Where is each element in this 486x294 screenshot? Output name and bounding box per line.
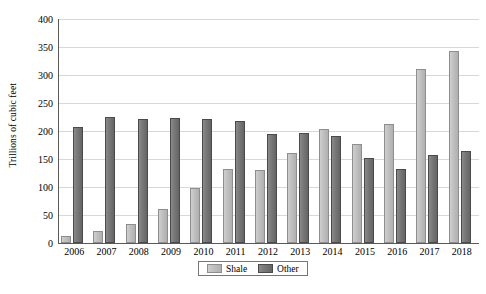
y-tick-label: 350 bbox=[10, 42, 58, 53]
x-tick-label: 2017 bbox=[414, 246, 446, 257]
x-tick-label: 2010 bbox=[187, 246, 219, 257]
legend-item-shale[interactable]: Shale bbox=[207, 264, 247, 274]
y-tick-label: 250 bbox=[10, 98, 58, 109]
bar-other-2006[interactable] bbox=[73, 127, 83, 243]
x-tick-label: 2011 bbox=[220, 246, 252, 257]
bar-shale-2011[interactable] bbox=[223, 169, 233, 243]
x-tick-label: 2012 bbox=[252, 246, 284, 257]
bar-group bbox=[187, 19, 219, 243]
bar-shale-2012[interactable] bbox=[255, 170, 265, 243]
bar-shale-2010[interactable] bbox=[190, 188, 200, 243]
bar-shale-2016[interactable] bbox=[384, 124, 394, 243]
bar-chart: Trillions of cubic feet 0501001502002503… bbox=[0, 0, 486, 294]
bar-shale-2013[interactable] bbox=[287, 153, 297, 243]
bar-group bbox=[381, 19, 413, 243]
y-tick-label: 300 bbox=[10, 70, 58, 81]
legend-swatch-shale bbox=[207, 264, 222, 273]
bar-shale-2015[interactable] bbox=[352, 144, 362, 243]
bar-shale-2014[interactable] bbox=[319, 129, 329, 243]
x-tick-label: 2014 bbox=[317, 246, 349, 257]
bar-other-2017[interactable] bbox=[428, 155, 438, 243]
bar-other-2011[interactable] bbox=[235, 121, 245, 243]
x-tick-label: 2015 bbox=[349, 246, 381, 257]
x-tick-label: 2006 bbox=[58, 246, 90, 257]
y-tick-label: 50 bbox=[10, 210, 58, 221]
x-tick-label: 2009 bbox=[155, 246, 187, 257]
chart-legend: ShaleOther bbox=[198, 261, 308, 276]
x-tick-label: 2018 bbox=[446, 246, 478, 257]
y-tick-label: 100 bbox=[10, 182, 58, 193]
x-tick-label: 2007 bbox=[90, 246, 122, 257]
bar-group bbox=[123, 19, 155, 243]
bar-other-2016[interactable] bbox=[396, 169, 406, 243]
bars-layer bbox=[58, 19, 478, 243]
bar-other-2009[interactable] bbox=[170, 118, 180, 243]
x-tick-label: 2016 bbox=[381, 246, 413, 257]
y-tick-label: 0 bbox=[10, 238, 58, 249]
bar-group bbox=[252, 19, 284, 243]
bar-shale-2008[interactable] bbox=[126, 224, 136, 243]
bar-other-2015[interactable] bbox=[364, 158, 374, 243]
legend-item-other[interactable]: Other bbox=[258, 264, 299, 274]
bar-shale-2009[interactable] bbox=[158, 209, 168, 243]
bar-group bbox=[58, 19, 90, 243]
y-tick-label: 400 bbox=[10, 14, 58, 25]
x-tick-label: 2013 bbox=[284, 246, 316, 257]
bar-group bbox=[413, 19, 445, 243]
bar-shale-2006[interactable] bbox=[61, 236, 71, 243]
y-axis-ticks: 050100150200250300350400 bbox=[0, 19, 58, 243]
bar-shale-2007[interactable] bbox=[93, 231, 103, 243]
bar-group bbox=[349, 19, 381, 243]
legend-label: Other bbox=[277, 264, 299, 274]
bar-group bbox=[155, 19, 187, 243]
bar-group bbox=[90, 19, 122, 243]
bar-other-2010[interactable] bbox=[202, 119, 212, 243]
bar-shale-2018[interactable] bbox=[449, 51, 459, 243]
bar-other-2014[interactable] bbox=[331, 136, 341, 243]
bar-group bbox=[446, 19, 478, 243]
y-tick-label: 200 bbox=[10, 126, 58, 137]
bar-other-2008[interactable] bbox=[138, 119, 148, 243]
bar-other-2012[interactable] bbox=[267, 134, 277, 243]
y-tick-label: 150 bbox=[10, 154, 58, 165]
bar-group bbox=[220, 19, 252, 243]
bar-other-2007[interactable] bbox=[105, 117, 115, 243]
bar-other-2018[interactable] bbox=[461, 151, 471, 243]
x-tick-label: 2008 bbox=[123, 246, 155, 257]
bar-group bbox=[316, 19, 348, 243]
legend-swatch-other bbox=[258, 264, 273, 273]
legend-label: Shale bbox=[226, 264, 247, 274]
bar-shale-2017[interactable] bbox=[416, 69, 426, 243]
bar-other-2013[interactable] bbox=[299, 133, 309, 243]
bar-group bbox=[284, 19, 316, 243]
